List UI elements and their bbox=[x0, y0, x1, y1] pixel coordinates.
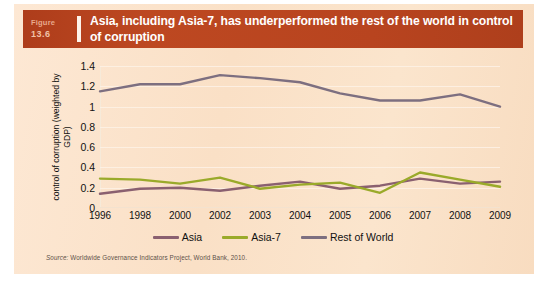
x-tick-label: 2009 bbox=[489, 210, 511, 221]
series-lines bbox=[100, 66, 500, 208]
figure-label: Figure bbox=[31, 18, 77, 28]
banner-divider bbox=[77, 16, 81, 42]
y-tick-label: 0.4 bbox=[80, 161, 95, 173]
x-tick-label: 2006 bbox=[369, 210, 391, 221]
y-tick-label: 0.2 bbox=[80, 182, 95, 194]
y-tick-label: 0.8 bbox=[80, 121, 95, 133]
y-tick-label: 1 bbox=[89, 101, 95, 113]
legend-item-rest-of-world[interactable]: Rest of World bbox=[301, 231, 393, 243]
legend-label: Asia-7 bbox=[251, 231, 281, 243]
plot-region bbox=[100, 66, 500, 208]
x-tick-label: 1998 bbox=[129, 210, 151, 221]
source-text: Worldwide Governance Indicators Project,… bbox=[70, 254, 247, 261]
series-line-rest-of-world bbox=[100, 75, 500, 106]
figure-root: Figure 13.6 Asia, including Asia-7, has … bbox=[0, 0, 548, 292]
x-tick-label: 2000 bbox=[169, 210, 191, 221]
y-axis-tick-labels: 00.20.40.60.811.21.4 bbox=[69, 66, 95, 208]
figure-banner: Figure 13.6 Asia, including Asia-7, has … bbox=[23, 10, 523, 48]
legend-swatch bbox=[301, 236, 327, 239]
x-tick-label: 2004 bbox=[289, 210, 311, 221]
x-tick-label: 2008 bbox=[449, 210, 471, 221]
y-tick-label: 1.2 bbox=[80, 80, 95, 92]
source-prefix: Source: bbox=[46, 254, 68, 261]
x-tick-label: 1996 bbox=[89, 210, 111, 221]
x-tick-label: 2003 bbox=[249, 210, 271, 221]
legend-swatch bbox=[222, 236, 248, 239]
x-axis-tick-labels: 1996199820002002200320042005200620072008… bbox=[100, 210, 500, 226]
legend-label: Rest of World bbox=[330, 231, 393, 243]
legend-item-asia-7[interactable]: Asia-7 bbox=[222, 231, 281, 243]
y-tick-label: 1.4 bbox=[80, 60, 95, 72]
figure-title: Asia, including Asia-7, has underperform… bbox=[90, 13, 523, 45]
figure-number-block: Figure 13.6 bbox=[23, 18, 77, 40]
x-tick-label: 2007 bbox=[409, 210, 431, 221]
figure-number: 13.6 bbox=[31, 28, 77, 40]
chart-legend: AsiaAsia-7Rest of World bbox=[23, 228, 523, 246]
x-tick-label: 2005 bbox=[329, 210, 351, 221]
chart-area: control of corruption (weighted by GDP) … bbox=[23, 58, 523, 238]
source-note: Source: Worldwide Governance Indicators … bbox=[46, 254, 247, 261]
y-tick-label: 0.6 bbox=[80, 141, 95, 153]
legend-swatch bbox=[153, 236, 179, 239]
x-tick-label: 2002 bbox=[209, 210, 231, 221]
legend-item-asia[interactable]: Asia bbox=[153, 231, 202, 243]
legend-label: Asia bbox=[182, 231, 202, 243]
